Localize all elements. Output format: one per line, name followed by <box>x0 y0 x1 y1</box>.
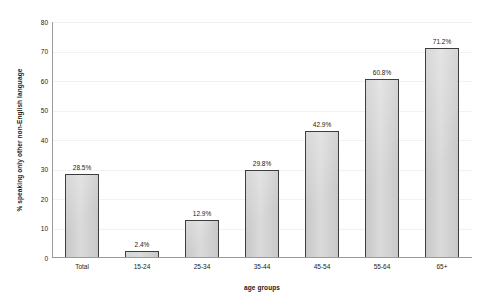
y-axis-tick-label: 0 <box>30 255 48 262</box>
x-axis-title: age groups <box>52 284 472 291</box>
plot-area: 28.5%2.4%12.9%29.8%42.9%60.8%71.2% <box>52 22 472 258</box>
y-axis-tick-labels: 01020304050607080 <box>26 22 48 258</box>
y-axis-tick-label: 50 <box>30 107 48 114</box>
bar-chart: % speaking only other non-English langua… <box>0 0 483 306</box>
x-axis-tick-label: Total <box>52 262 112 271</box>
plot-frame <box>52 22 472 258</box>
x-axis-tick-label: 25-34 <box>172 262 232 271</box>
y-axis-tick-label: 40 <box>30 137 48 144</box>
y-axis-tick-label: 20 <box>30 196 48 203</box>
y-axis-tick-label: 30 <box>30 166 48 173</box>
x-axis-tick-label: 35-44 <box>232 262 292 271</box>
y-axis-tick-label: 60 <box>30 78 48 85</box>
x-axis-tick-label: 55-64 <box>352 262 412 271</box>
y-axis-tick-label: 70 <box>30 48 48 55</box>
y-axis-title: % speaking only other non-English langua… <box>14 22 26 258</box>
x-axis-tick-label: 15-24 <box>112 262 172 271</box>
y-axis-tick-label: 10 <box>30 225 48 232</box>
x-axis-tick-label: 45-54 <box>292 262 352 271</box>
x-axis-tick-labels: Total15-2425-3435-4445-5455-6465+ <box>52 262 472 274</box>
y-axis-tick-label: 80 <box>30 19 48 26</box>
x-axis-tick-label: 65+ <box>412 262 472 271</box>
